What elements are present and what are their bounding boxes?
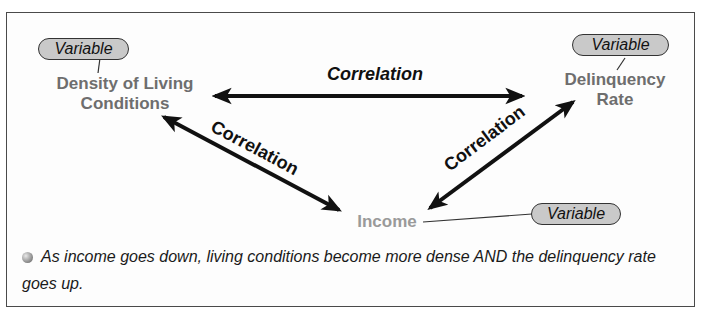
density-label-line2: Conditions (30, 94, 220, 114)
bullet-icon (22, 252, 33, 263)
delinquency-variable-tag: Variable (572, 34, 669, 56)
delinquency-node-label: Delinquency Rate (545, 70, 685, 110)
edge-label-right: Correlation (440, 101, 529, 175)
summary-note-text: As income goes down, living conditions b… (22, 248, 656, 292)
summary-note: As income goes down, living conditions b… (22, 243, 682, 297)
arrow-density-income (164, 117, 339, 210)
density-tag-connector (98, 58, 100, 73)
edge-label-top: Correlation (327, 64, 423, 84)
delinquency-tag-connector (617, 58, 625, 70)
density-variable-tag: Variable (38, 38, 129, 60)
density-node-label: Density of Living Conditions (30, 74, 220, 114)
delinquency-label-line1: Delinquency (545, 70, 685, 90)
income-node-label: Income (352, 212, 422, 232)
delinquency-label-line2: Rate (545, 90, 685, 110)
income-variable-tag: Variable (531, 203, 621, 225)
density-label-line1: Density of Living (30, 74, 220, 94)
income-tag-connector (423, 214, 532, 222)
